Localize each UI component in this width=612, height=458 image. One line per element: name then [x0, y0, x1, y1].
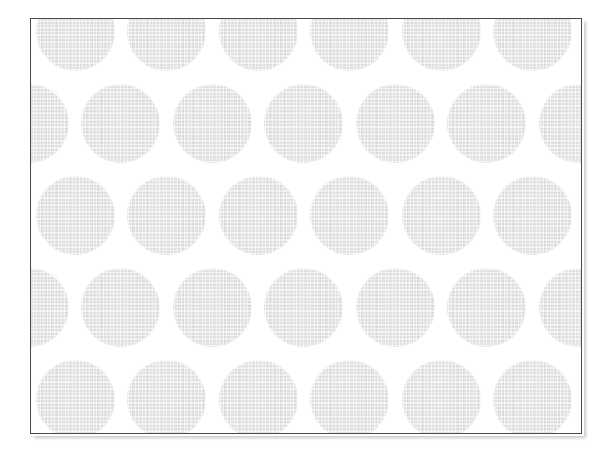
pattern-dot	[127, 176, 206, 255]
pattern-dot	[493, 176, 572, 255]
pattern-dot	[356, 268, 435, 347]
pattern-dot	[310, 176, 389, 255]
pattern-dot	[219, 360, 298, 435]
pattern-dot	[30, 84, 69, 163]
dot-pattern-swatch	[30, 18, 582, 434]
pattern-dot	[264, 84, 343, 163]
pattern-dot	[402, 18, 481, 71]
pattern-dot	[30, 268, 69, 347]
pattern-dot	[81, 84, 160, 163]
pattern-dot	[447, 268, 526, 347]
image-canvas	[0, 0, 612, 458]
pattern-dot	[310, 360, 389, 435]
pattern-dot	[36, 176, 115, 255]
pattern-dot	[219, 176, 298, 255]
pattern-dot	[127, 18, 206, 71]
pattern-dot	[36, 360, 115, 435]
pattern-dot	[127, 360, 206, 435]
pattern-dot	[310, 18, 389, 71]
pattern-dot	[493, 18, 572, 71]
pattern-dot	[36, 18, 115, 71]
pattern-dot	[219, 18, 298, 71]
dot-field	[30, 18, 582, 434]
pattern-dot	[447, 84, 526, 163]
pattern-dot	[539, 84, 582, 163]
pattern-dot	[493, 360, 572, 435]
pattern-dot	[173, 268, 252, 347]
pattern-dot	[173, 84, 252, 163]
pattern-dot	[402, 176, 481, 255]
pattern-dot	[81, 268, 160, 347]
pattern-dot	[539, 268, 582, 347]
pattern-dot	[356, 84, 435, 163]
pattern-dot	[402, 360, 481, 435]
pattern-dot	[264, 268, 343, 347]
